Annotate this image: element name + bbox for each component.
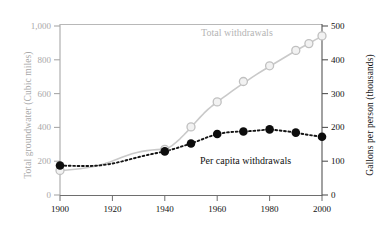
y-axis-title: Total groundwater (Cubic miles) — [23, 30, 33, 200]
data-point-total-1990 — [292, 46, 300, 54]
y-tick-label-200: 200 — [38, 156, 52, 166]
y2-axis-title: Gallons per person (thousands) — [365, 30, 375, 200]
data-point-percapita-1970 — [239, 127, 248, 136]
y2-tick-label-300: 300 — [331, 89, 345, 99]
data-point-total-1970 — [239, 78, 247, 86]
x-tick-label-1960: 1960 — [208, 204, 226, 214]
x-tick-label-1940: 1940 — [156, 204, 174, 214]
total-withdrawals-curve — [60, 106, 217, 170]
x-tick-label-1900: 1900 — [51, 204, 69, 214]
y2-tick-label-400: 400 — [331, 55, 345, 65]
data-point-percapita-1980 — [265, 125, 274, 134]
y-tick-label-600: 600 — [38, 89, 52, 99]
y2-tick-label-500: 500 — [331, 21, 345, 31]
data-point-percapita-1960 — [213, 130, 222, 139]
data-point-total-1995 — [305, 40, 313, 48]
series-annotation-total-withdrawals: Total withdrawals — [201, 27, 273, 38]
total-withdrawals-markers — [56, 32, 326, 175]
data-point-total-2000 — [318, 32, 326, 40]
data-point-total-1980 — [266, 62, 274, 70]
data-point-percapita-2000 — [318, 133, 327, 142]
data-point-percapita-1940 — [161, 147, 170, 156]
y-tick-label-0: 0 — [47, 190, 52, 200]
data-point-percapita-1900 — [56, 161, 65, 170]
y-tick-label-1000: 1,000 — [31, 21, 51, 31]
y2-tick-label-100: 100 — [331, 156, 345, 166]
chart-figure: Total groundwater (Cubic miles) Gallons … — [0, 0, 380, 234]
y2-tick-label-0: 0 — [331, 190, 336, 200]
data-point-total-1960 — [213, 98, 221, 106]
data-point-percapita-1990 — [292, 128, 301, 137]
y2-tick-label-200: 200 — [331, 122, 345, 132]
x-axis-ticks — [60, 196, 322, 202]
y-tick-label-800: 800 — [38, 55, 52, 65]
right-axis-ticks — [322, 26, 328, 195]
series-annotation-per-capita-withdrawals: Per capita withdrawals — [200, 155, 291, 166]
x-tick-label-2000: 2000 — [313, 204, 331, 214]
y-tick-label-400: 400 — [38, 122, 52, 132]
data-point-percapita-1950 — [187, 139, 196, 148]
data-point-total-1950 — [187, 123, 195, 131]
chart-plot-area — [0, 0, 380, 234]
x-tick-label-1920: 1920 — [103, 204, 121, 214]
total-withdrawals-smooth-line — [60, 37, 322, 171]
x-tick-label-1980: 1980 — [261, 204, 279, 214]
